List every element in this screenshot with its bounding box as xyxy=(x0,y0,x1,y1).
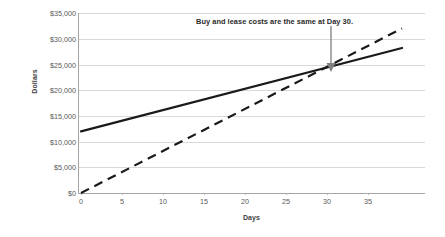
y-tick-label-20000: $20,000 xyxy=(6,86,76,95)
series-line-buy xyxy=(81,48,402,131)
x-tick-label-15: 15 xyxy=(190,197,218,206)
y-tick-label-25000: $25,000 xyxy=(6,61,76,70)
plot-svg xyxy=(78,13,425,195)
plot-area xyxy=(78,13,425,193)
x-tick-label-10: 10 xyxy=(149,197,177,206)
y-tick-label-35000: $35,000 xyxy=(6,9,76,18)
y-tick-label-0: $0 xyxy=(6,189,76,198)
y-tick-label-30000: $30,000 xyxy=(6,35,76,44)
x-tick-label-5: 5 xyxy=(108,197,136,206)
gridlines xyxy=(78,14,425,168)
chart-container: Dollars $35,000 $30,000 $25,000 $20,000 … xyxy=(0,0,445,237)
x-tick-label-25: 25 xyxy=(272,197,300,206)
x-tick-label-20: 20 xyxy=(231,197,259,206)
annotation-text: Buy and lease costs are the same at Day … xyxy=(196,17,353,26)
y-tick-label-5000: $5,000 xyxy=(6,163,76,172)
series-line-lease xyxy=(81,28,402,193)
x-tick-label-35: 35 xyxy=(354,197,382,206)
down-arrow-icon xyxy=(318,26,344,76)
y-tick-label-15000: $15,000 xyxy=(6,112,76,121)
x-tick-label-30: 30 xyxy=(313,197,341,206)
y-tick-label-10000: $10,000 xyxy=(6,138,76,147)
x-axis-title: Days xyxy=(78,214,425,221)
x-tick-label-0: 0 xyxy=(67,197,95,206)
